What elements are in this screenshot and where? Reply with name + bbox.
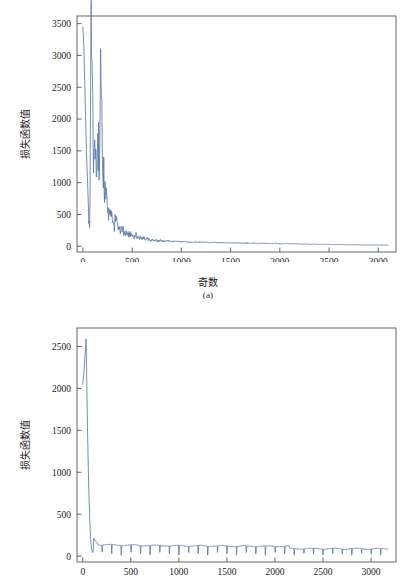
figure-panel-a: 0500100015002000250030000500100015002000… (0, 0, 416, 300)
chart-b-svg: 0500100015002000250030000500100015002000… (0, 300, 416, 583)
chart-a-caption: (a) (0, 290, 416, 300)
chart-a-svg: 0500100015002000250030000500100015002000… (0, 0, 416, 262)
y-tick-label: 500 (57, 510, 72, 520)
chart-a-y-axis-title: 损失函数值 (17, 96, 32, 172)
x-tick-label: 0 (80, 567, 85, 577)
x-tick-label: 2000 (265, 567, 284, 577)
y-tick-label: 2000 (52, 114, 71, 124)
x-tick-label: 3000 (369, 257, 388, 262)
x-tick-label: 2500 (320, 257, 339, 262)
x-tick-label: 500 (125, 257, 140, 262)
x-tick-label: 500 (124, 567, 139, 577)
y-tick-label: 1500 (52, 146, 71, 156)
y-tick-label: 0 (66, 242, 71, 252)
x-tick-label: 2000 (270, 257, 289, 262)
x-tick-label: 1500 (217, 567, 236, 577)
y-tick-label: 500 (57, 210, 72, 220)
chart-b-y-axis-title: 损失函数值 (17, 407, 32, 483)
chart-a-x-axis-title: 奇数 (0, 274, 416, 289)
loss-curve (83, 339, 388, 555)
y-tick-label: 2500 (52, 342, 71, 352)
x-tick-label: 2500 (313, 567, 332, 577)
x-tick-label: 0 (81, 257, 86, 262)
y-tick-label: 3500 (52, 19, 71, 29)
loss-curve (83, 0, 388, 245)
chart-a-plot-area: 0500100015002000250030000500100015002000… (0, 0, 416, 262)
figure-panel-b: 0500100015002000250030000500100015002000… (0, 300, 416, 583)
y-tick-label: 3000 (52, 51, 71, 61)
y-tick-label: 2000 (52, 384, 71, 394)
x-tick-label: 3000 (362, 567, 381, 577)
x-tick-label: 1500 (221, 257, 240, 262)
x-tick-label: 1000 (169, 567, 188, 577)
y-tick-label: 1000 (52, 178, 71, 188)
y-tick-label: 1000 (52, 468, 71, 478)
plot-frame (77, 16, 396, 252)
chart-b-plot-area: 0500100015002000250030000500100015002000… (0, 300, 416, 583)
plot-frame (77, 328, 396, 562)
y-tick-label: 2500 (52, 83, 71, 93)
y-tick-label: 0 (66, 552, 71, 562)
y-tick-label: 1500 (52, 426, 71, 436)
x-tick-label: 1000 (172, 257, 191, 262)
